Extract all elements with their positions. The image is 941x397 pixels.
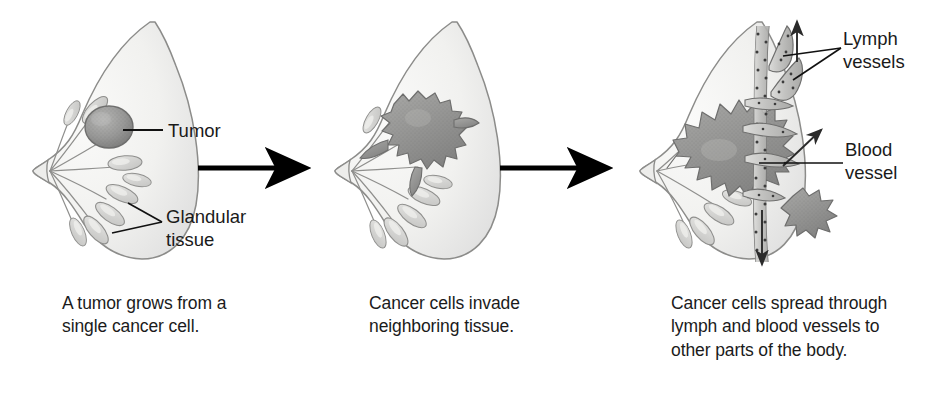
nipple [335, 160, 351, 183]
label-tumor: Tumor [168, 120, 221, 143]
tumor-mass [85, 106, 133, 148]
nipple [640, 160, 656, 183]
label-lymph-vessels: Lymph vessels [843, 28, 905, 73]
breast-cancer-progression-figure: Tumor Glandular tissue Lymph vessels Blo… [0, 0, 941, 397]
caption-panel-3: Cancer cells spread through lymph and bl… [671, 292, 941, 362]
nipple [33, 160, 49, 183]
caption-panel-2: Cancer cells invade neighboring tissue. [369, 292, 639, 339]
label-blood-vessel: Blood vessel [845, 139, 897, 184]
caption-panel-1: A tumor grows from a single cancer cell. [62, 292, 332, 339]
panel-3-illustration [640, 22, 843, 264]
label-glandular-tissue: Glandular tissue [166, 206, 246, 251]
panel-2-illustration [335, 22, 500, 259]
